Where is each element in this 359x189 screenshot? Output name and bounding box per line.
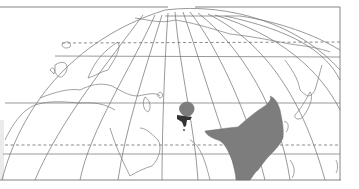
- meridians: [35, 12, 340, 180]
- range-area-central-asia: [179, 102, 194, 116]
- scan-edge: [0, 120, 4, 180]
- parallels: [3, 16, 340, 154]
- dark-marker: [177, 115, 192, 127]
- range-area-east-asia: [205, 96, 283, 180]
- dark-marker-dot: [183, 129, 185, 131]
- range-map: [0, 0, 359, 189]
